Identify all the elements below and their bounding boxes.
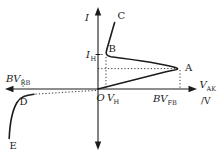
point-b-label: B: [109, 43, 116, 54]
y-axis-label: I: [84, 12, 90, 23]
x-axis-left-arrow-icon: [5, 86, 14, 92]
holding-current-subscript: H: [91, 55, 97, 63]
point-a-label: A: [184, 62, 193, 73]
holding-voltage-subscript: H: [114, 98, 120, 106]
origin-label: O: [97, 92, 105, 103]
x-axis-right-arrow-icon: [189, 86, 198, 92]
forward-characteristic-curve: [98, 23, 178, 90]
x-axis-label-subscript: AK: [206, 85, 217, 93]
x-axis-unit-label: /V: [201, 96, 211, 106]
y-axis-down-arrow-icon: [95, 142, 101, 151]
thyristor-iv-figure: I V AK /V O C B A D E I H V H BV FB BV R…: [0, 0, 222, 160]
y-axis-up-arrow-icon: [95, 7, 101, 16]
iv-curve-canvas: I V AK /V O C B A D E I H V H BV FB BV R…: [0, 0, 222, 160]
reverse-breakdown-subscript: RB: [21, 79, 31, 87]
point-d-label: D: [20, 96, 28, 107]
reverse-leakage-dotted-segment: [34, 90, 96, 94]
forward-breakover-subscript: FB: [168, 99, 178, 107]
point-e-label: E: [10, 140, 17, 151]
point-c-label: C: [118, 10, 126, 21]
